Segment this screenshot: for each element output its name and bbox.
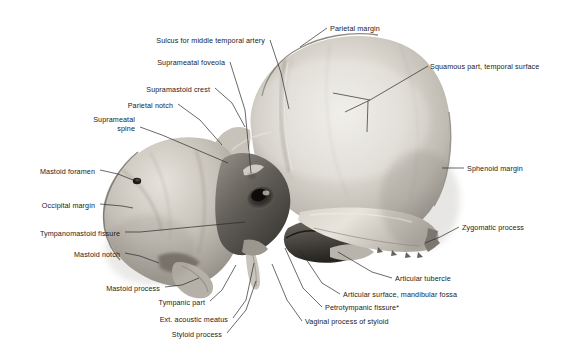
label-articular-surface-mandibular-fossa: Articular surface, mandibular fossa <box>343 290 457 299</box>
label-mastoid-notch: Mastoid notch <box>74 250 120 259</box>
label-sphenoid-margin: Sphenoid margin <box>467 164 523 173</box>
label-suprameatal-foveola: Suprameatal foveola <box>157 58 225 67</box>
label-tympanic-part: Tympanic part <box>159 298 205 307</box>
label-styloid-process: Styloid process <box>172 330 222 339</box>
specimen-body <box>96 28 460 306</box>
label-parietal-notch: Parietal notch <box>128 101 173 110</box>
label-petrotympanic-fissure: Petrotympanic fissure* <box>325 303 399 312</box>
label-occipital-margin: Occipital margin <box>42 201 95 210</box>
label-suprameatal-spine-line1: Suprameatal <box>75 115 135 124</box>
label-tympanomastoid-fissure: Tympanomastoid fissure <box>40 229 120 238</box>
temporal-bone-specimen-image <box>0 0 570 356</box>
label-parietal-margin: Parietal margin <box>330 24 380 33</box>
label-sulcus-middle-temporal-artery: Sulcus for middle temporal artery <box>156 36 265 45</box>
label-squamous-part-temporal-surface: Squamous part, temporal surface <box>430 62 539 71</box>
label-suprameatal-spine-line2: spine <box>75 124 135 133</box>
label-vaginal-process-of-styloid: Vaginal process of styloid <box>305 317 389 326</box>
anatomical-figure: Parietal marginSulcus for middle tempora… <box>0 0 570 356</box>
label-supramastoid-crest: Supramastoid crest <box>146 85 210 94</box>
label-suprameatal-spine: Suprameatalspine <box>75 115 135 133</box>
label-articular-tubercle: Articular tubercle <box>395 274 451 283</box>
label-ext-acoustic-meatus: Ext. acoustic meatus <box>160 315 228 324</box>
label-zygomatic-process: Zygomatic process <box>462 223 524 232</box>
label-mastoid-foramen: Mastoid foramen <box>40 167 95 176</box>
label-mastoid-process: Mastoid process <box>106 284 160 293</box>
